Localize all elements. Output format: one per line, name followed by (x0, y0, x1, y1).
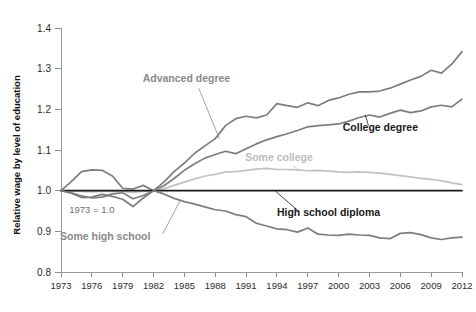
series-lines (61, 52, 462, 240)
y-tick-label: 1.2 (37, 104, 51, 115)
relative-wage-chart: 1.41.31.21.11.00.90.8 197319761979198219… (0, 0, 476, 312)
x-tick-label: 2012 (451, 280, 472, 291)
y-tick-label: 0.9 (37, 226, 51, 237)
x-tick-label: 1979 (112, 280, 133, 291)
series-line-college-degree (61, 99, 462, 199)
x-axis-ticks: 1973197619791982198519881991199419972000… (50, 272, 472, 291)
baseline-note: 1973 = 1.0 (69, 204, 114, 215)
y-tick-label: 1.1 (37, 145, 51, 156)
series-label-advanced-degree: Advanced degree (143, 72, 231, 84)
series-labels: Advanced degreeCollege degreeSome colleg… (60, 72, 418, 243)
x-tick-label: 2003 (359, 280, 380, 291)
x-tick-label: 2000 (328, 280, 349, 291)
y-axis-title: Relative wage by level of education (11, 75, 22, 235)
series-line-some-college (61, 168, 462, 192)
series-label-college-degree: College degree (343, 121, 418, 133)
x-tick-label: 2009 (421, 280, 442, 291)
x-tick-label: 1985 (174, 280, 195, 291)
y-tick-label: 1.3 (37, 63, 51, 74)
y-tick-label: 0.8 (37, 267, 51, 278)
leader-line-some-high-school (163, 200, 180, 233)
y-tick-label: 1.4 (37, 23, 51, 34)
x-tick-label: 1991 (236, 280, 257, 291)
x-tick-label: 1973 (50, 280, 71, 291)
y-tick-label: 1.0 (37, 185, 51, 196)
series-label-high-school-diploma: High school diploma (277, 206, 380, 218)
x-tick-label: 1988 (205, 280, 226, 291)
series-label-some-high-school: Some high school (60, 230, 151, 242)
chart-canvas: 1.41.31.21.11.00.90.8 197319761979198219… (0, 0, 476, 312)
series-label-some-college: Some college (245, 151, 313, 163)
x-tick-label: 1997 (297, 280, 318, 291)
y-axis-ticks: 1.41.31.21.11.00.90.8 (37, 23, 61, 278)
x-tick-label: 1994 (266, 280, 287, 291)
x-tick-label: 1982 (143, 280, 164, 291)
x-tick-label: 2006 (390, 280, 411, 291)
leader-line-advanced-degree (199, 88, 220, 138)
x-tick-label: 1976 (81, 280, 102, 291)
